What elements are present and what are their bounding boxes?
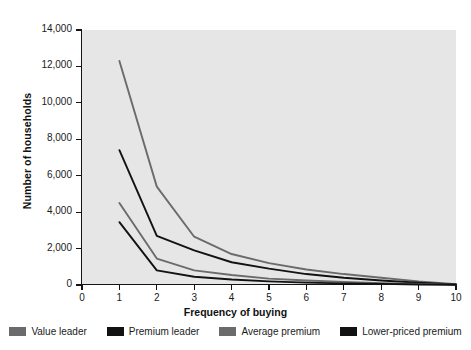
legend-item[interactable]: Premium leader xyxy=(107,326,200,337)
x-axis-tick xyxy=(418,285,419,290)
y-axis-tick xyxy=(76,248,82,249)
x-axis-tick xyxy=(156,285,157,290)
y-axis-tick-label: 12,000 xyxy=(16,59,72,70)
x-axis-tick xyxy=(268,285,269,290)
y-axis-tick-label: 8,000 xyxy=(16,132,72,143)
x-axis-tick xyxy=(306,285,307,290)
y-axis-tick xyxy=(76,175,82,176)
x-axis-tick xyxy=(81,285,82,290)
x-axis-tick-label: 0 xyxy=(67,292,97,303)
x-axis-tick xyxy=(194,285,195,290)
legend-item[interactable]: Average premium xyxy=(219,326,320,337)
x-axis-tick xyxy=(119,285,120,290)
x-axis-tick xyxy=(343,285,344,290)
chart-legend: Value leaderPremium leaderAverage premiu… xyxy=(0,326,471,337)
y-axis-tick-label: 14,000 xyxy=(16,23,72,34)
y-axis-tick xyxy=(76,102,82,103)
y-axis-tick-label: 2,000 xyxy=(16,242,72,253)
x-axis-tick xyxy=(231,285,232,290)
x-axis-tick xyxy=(381,285,382,290)
y-axis-tick xyxy=(76,66,82,67)
legend-item-label: Lower-priced premium xyxy=(362,326,461,337)
legend-item[interactable]: Value leader xyxy=(9,326,86,337)
x-axis-tick-label: 6 xyxy=(291,292,321,303)
y-axis-tick xyxy=(76,139,82,140)
x-axis-tick-label: 1 xyxy=(104,292,134,303)
y-axis-tick-label: 6,000 xyxy=(16,169,72,180)
legend-item-label: Premium leader xyxy=(129,326,200,337)
y-axis-tick-label: 0 xyxy=(16,278,72,289)
y-axis-tick xyxy=(76,212,82,213)
y-axis-tick-label: 10,000 xyxy=(16,96,72,107)
x-axis-title: Frequency of buying xyxy=(0,306,471,318)
x-axis-tick-label: 3 xyxy=(179,292,209,303)
legend-swatch-icon xyxy=(107,327,124,336)
legend-swatch-icon xyxy=(9,327,26,336)
legend-item-label: Value leader xyxy=(31,326,86,337)
x-axis-tick-label: 5 xyxy=(254,292,284,303)
plot-area xyxy=(82,30,456,285)
x-axis-tick-label: 2 xyxy=(142,292,172,303)
x-axis-tick-label: 7 xyxy=(329,292,359,303)
y-axis-tick-label: 4,000 xyxy=(16,205,72,216)
legend-swatch-icon xyxy=(340,327,357,336)
legend-item-label: Average premium xyxy=(241,326,320,337)
y-axis-title: Number of households xyxy=(21,51,33,251)
x-axis-tick-label: 8 xyxy=(366,292,396,303)
chart-figure: Number of households 02,0004,0006,0008,0… xyxy=(0,0,471,350)
x-axis-tick-label: 9 xyxy=(404,292,434,303)
legend-swatch-icon xyxy=(219,327,236,336)
legend-item[interactable]: Lower-priced premium xyxy=(340,326,461,337)
x-axis-tick xyxy=(455,285,456,290)
x-axis-tick-label: 10 xyxy=(441,292,471,303)
x-axis-tick-label: 4 xyxy=(217,292,247,303)
y-axis-tick xyxy=(76,29,82,30)
